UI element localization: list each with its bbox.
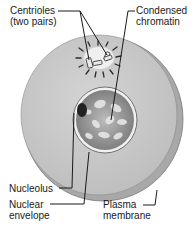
- label-nuclear-envelope: Nuclear envelope: [9, 199, 50, 221]
- label-plasma-membrane: Plasma membrane: [103, 199, 151, 221]
- label-nuclear-line2: envelope: [9, 210, 50, 221]
- label-nuclear-line1: Nuclear: [9, 199, 50, 210]
- prophase-cell-diagram: Centrioles (two pairs) Condensed chromat…: [0, 0, 194, 226]
- label-centrioles-line1: Centrioles: [10, 5, 57, 16]
- nucleolus: [77, 103, 87, 117]
- label-plasma-line1: Plasma: [103, 199, 151, 210]
- label-nucleolus: Nucleolus: [9, 183, 53, 194]
- label-plasma-line2: membrane: [103, 210, 151, 221]
- label-condensed-chromatin: Condensed chromatin: [136, 5, 187, 27]
- label-centrioles: Centrioles (two pairs): [10, 5, 57, 27]
- label-centrioles-line2: (two pairs): [10, 16, 57, 27]
- nucleus: [73, 87, 137, 153]
- label-chromatin-line2: chromatin: [136, 16, 187, 27]
- label-chromatin-line1: Condensed: [136, 5, 187, 16]
